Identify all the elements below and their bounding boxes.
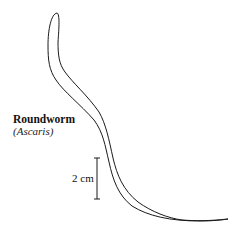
scale-bar xyxy=(94,158,100,199)
scale-bar-label: 2 cm xyxy=(72,172,94,184)
worm-body-outline xyxy=(48,13,228,221)
scientific-name: (Ascaris) xyxy=(13,125,75,137)
species-label: Roundworm (Ascaris) xyxy=(13,113,75,137)
worm-body-inner-outline xyxy=(57,13,228,221)
common-name: Roundworm xyxy=(13,113,75,125)
